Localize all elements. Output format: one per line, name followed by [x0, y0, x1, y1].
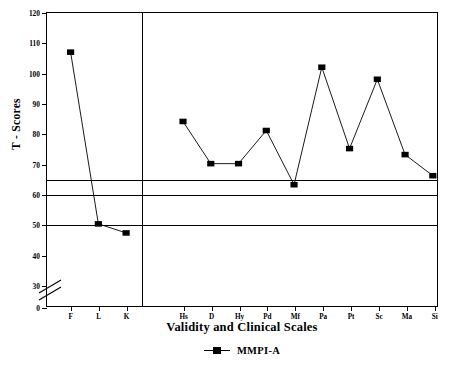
x-tick-mark — [240, 306, 241, 311]
data-point-sc — [374, 76, 381, 82]
x-tick-mark — [212, 306, 213, 311]
legend-label: MMPI-A — [237, 345, 280, 356]
x-tick-mark — [435, 306, 436, 311]
data-point-hy — [235, 161, 242, 167]
y-tick-label: 50 — [33, 221, 40, 230]
y-tick-label: 60 — [33, 191, 40, 200]
y-tick-label: 90 — [33, 100, 40, 109]
axis-break-icon — [38, 276, 64, 304]
plot-area: 030405060708090100110120 FLKHsDHyPdMfPaP… — [46, 12, 438, 307]
x-tick-mark — [267, 306, 268, 311]
data-point-d — [207, 161, 214, 167]
data-point-k — [123, 230, 130, 236]
data-point-pt — [346, 146, 353, 152]
x-tick-mark — [71, 306, 72, 311]
series-line — [71, 52, 127, 233]
x-tick-mark — [184, 306, 185, 311]
x-tick-mark — [379, 306, 380, 311]
x-tick-mark — [295, 306, 296, 311]
y-tick-label: 0 — [36, 304, 40, 313]
data-point-pd — [263, 128, 270, 134]
y-tick-mark — [42, 308, 47, 309]
y-tick-label: 120 — [29, 9, 40, 18]
data-point-si — [429, 173, 436, 179]
chart-legend: MMPI-A — [46, 345, 438, 356]
x-axis-title: Validity and Clinical Scales — [46, 320, 438, 335]
y-tick-label: 80 — [33, 130, 40, 139]
x-tick-mark — [351, 306, 352, 311]
chart-root: T - Scores 030405060708090100110120 FLKH… — [0, 0, 449, 367]
data-point-f — [67, 49, 74, 55]
y-tick-label: 70 — [33, 160, 40, 169]
data-point-pa — [318, 64, 325, 70]
x-tick-mark — [323, 306, 324, 311]
y-tick-label: 110 — [29, 39, 40, 48]
x-tick-mark — [127, 306, 128, 311]
data-point-ma — [401, 152, 408, 158]
data-point-hs — [179, 119, 186, 125]
data-series-mmpi-a — [47, 13, 437, 306]
y-tick-label: 40 — [33, 251, 40, 260]
y-tick-label: 100 — [29, 69, 40, 78]
x-tick-mark — [99, 306, 100, 311]
data-point-mf — [290, 182, 297, 188]
data-point-l — [95, 221, 102, 227]
legend-marker-icon — [204, 346, 230, 356]
y-axis-title: T - Scores — [10, 84, 22, 164]
series-line — [183, 67, 433, 184]
x-tick-mark — [407, 306, 408, 311]
